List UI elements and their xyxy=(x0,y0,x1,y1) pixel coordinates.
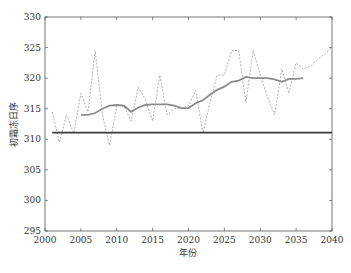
plot-area xyxy=(45,17,332,231)
y-tick-label: 315 xyxy=(24,104,41,114)
y-tick-label: 330 xyxy=(24,12,41,22)
x-tick-label: 2020 xyxy=(177,235,200,245)
y-tick-label: 325 xyxy=(24,43,41,53)
plot-border xyxy=(45,17,332,231)
y-tick-label: 320 xyxy=(24,73,41,83)
x-tick-label: 2000 xyxy=(34,235,57,245)
series-moving-average xyxy=(81,77,303,115)
data-series xyxy=(52,48,332,146)
x-axis-label: 年份 xyxy=(179,247,197,258)
x-tick-label: 2035 xyxy=(285,235,308,245)
x-tick-label: 2030 xyxy=(249,235,272,245)
x-tick-label: 2005 xyxy=(69,235,92,245)
y-tick-label: 310 xyxy=(24,134,41,144)
y-tick-label: 295 xyxy=(24,226,41,236)
line-chart: 2000200520102015202020252030203520402953… xyxy=(0,0,351,273)
y-tick-label: 300 xyxy=(24,195,41,205)
x-tick-label: 2015 xyxy=(141,235,164,245)
y-axis-label: 初霜冻日序 xyxy=(8,102,19,147)
x-tick-label: 2025 xyxy=(213,235,236,245)
x-tick-label: 2040 xyxy=(321,235,344,245)
x-tick-label: 2010 xyxy=(105,235,128,245)
y-tick-label: 305 xyxy=(24,165,41,175)
series-annual-first-frost-day xyxy=(52,48,332,146)
